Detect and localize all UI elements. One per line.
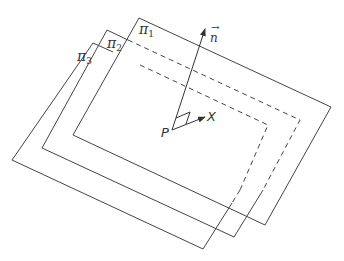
label-pi3: π3: [77, 49, 92, 66]
label-point-p: P: [161, 126, 169, 139]
label-pi1: π1: [139, 22, 154, 39]
label-direction-x: X: [207, 110, 216, 123]
label-normal-vector: → n: [210, 32, 218, 44]
vector-arrow-accent: →: [211, 23, 219, 33]
planes-drawing: [0, 0, 344, 261]
normal-vector-arrow: [172, 29, 205, 130]
direction-arrow: [172, 117, 205, 130]
label-pi2: π2: [107, 36, 122, 53]
right-angle-marker: [176, 112, 190, 124]
plane-pi3: [12, 43, 268, 249]
diagram-canvas: π1 π2 π3 → n P X: [0, 0, 344, 261]
